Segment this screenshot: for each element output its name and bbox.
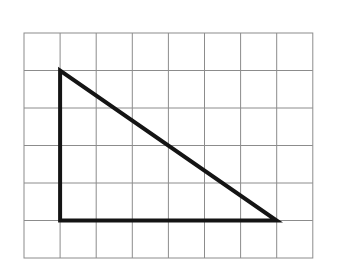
grid-triangle-figure — [0, 0, 337, 272]
figure-container — [0, 0, 337, 272]
